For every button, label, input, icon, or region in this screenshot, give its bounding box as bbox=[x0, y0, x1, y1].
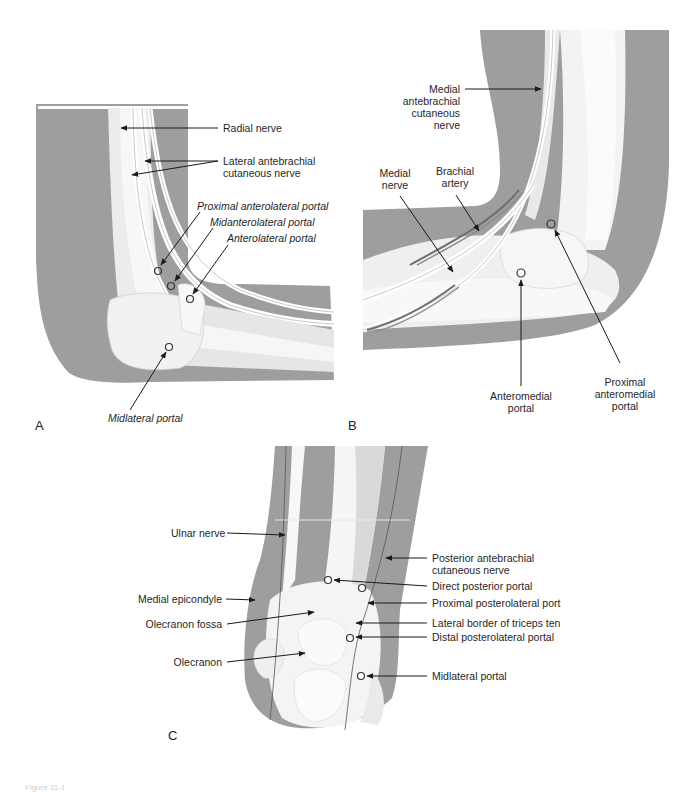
label-medial-antebrachial-nerve-line2: antebrachial bbox=[385, 95, 460, 107]
label-posterior-antebrachial-nerve-line1: Posterior antebrachial bbox=[432, 552, 534, 564]
proximal-posterolateral-portal-marker bbox=[359, 585, 366, 592]
label-proximal-posterolateral-portal: Proximal posterolateral port bbox=[432, 597, 560, 609]
midlateral-portal-c-marker bbox=[358, 673, 365, 680]
label-proximal-anterolateral-portal: Proximal anterolateral portal bbox=[197, 200, 328, 212]
label-proximal-anteromedial-portal-line2: anteromedial bbox=[590, 388, 660, 400]
label-brachial-artery-line2: artery bbox=[430, 177, 480, 189]
panel-a-lateral-elbow: Radial nerve Lateral antebrachial cutane… bbox=[0, 0, 350, 440]
label-lateral-antebrachial-nerve-line1: Lateral antebrachial bbox=[223, 155, 315, 167]
panel-letter-c: C bbox=[168, 728, 177, 743]
label-proximal-anteromedial-portal-line3: portal bbox=[590, 400, 660, 412]
label-brachial-artery-line1: Brachial bbox=[430, 165, 480, 177]
label-olecranon: Olecranon bbox=[110, 656, 222, 668]
label-medial-epicondyle: Medial epicondyle bbox=[110, 593, 222, 605]
direct-posterior-portal-marker bbox=[325, 577, 332, 584]
label-medial-nerve-line1: Medial bbox=[370, 167, 420, 179]
panel-c-posterior-elbow: Ulnar nerve Posterior antebrachial cutan… bbox=[0, 440, 699, 780]
panel-b-medial-elbow: Medial antebrachial cutaneous nerve Medi… bbox=[355, 0, 699, 440]
label-lateral-antebrachial-nerve-line2: cutaneous nerve bbox=[223, 167, 301, 179]
label-anteromedial-portal-line1: Anteromedial bbox=[486, 390, 556, 402]
label-anteromedial-portal-line2: portal bbox=[486, 402, 556, 414]
label-proximal-anteromedial-portal-line1: Proximal bbox=[590, 376, 660, 388]
label-medial-antebrachial-nerve-line3: cutaneous bbox=[385, 107, 460, 119]
label-ulnar-nerve: Ulnar nerve bbox=[171, 527, 225, 539]
label-midlateral-portal-c: Midlateral portal bbox=[432, 670, 507, 682]
label-olecranon-fossa: Olecranon fossa bbox=[110, 618, 222, 630]
label-distal-posterolateral-portal: Distal posterolateral portal bbox=[432, 631, 554, 643]
label-anterolateral-portal: Anterolateral portal bbox=[227, 232, 316, 244]
label-medial-nerve-line2: nerve bbox=[370, 179, 420, 191]
figure-caption-fragment: Figure 11-1 bbox=[25, 783, 65, 792]
label-medial-antebrachial-nerve-line4: nerve bbox=[385, 119, 460, 131]
panel-letter-a: A bbox=[35, 418, 44, 433]
midlateral-portal-marker bbox=[166, 344, 173, 351]
label-medial-antebrachial-nerve-line1: Medial bbox=[405, 83, 460, 95]
label-posterior-antebrachial-nerve-line2: cutaneous nerve bbox=[432, 564, 510, 576]
panel-letter-b: B bbox=[348, 418, 357, 433]
label-radial-nerve: Radial nerve bbox=[223, 122, 282, 134]
medial-elbow-illustration bbox=[355, 0, 699, 440]
label-direct-posterior-portal: Direct posterior portal bbox=[432, 580, 532, 592]
posterior-elbow-illustration bbox=[0, 440, 699, 780]
anteromedial-portal-marker bbox=[517, 269, 525, 277]
label-midlateral-portal: Midlateral portal bbox=[108, 412, 183, 424]
label-lateral-border-triceps: Lateral border of triceps ten bbox=[432, 617, 560, 629]
label-midanterolateral-portal: Midanterolateral portal bbox=[210, 216, 314, 228]
distal-posterolateral-portal-marker bbox=[347, 635, 354, 642]
